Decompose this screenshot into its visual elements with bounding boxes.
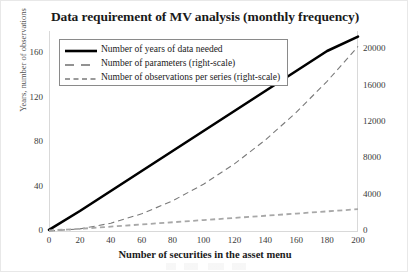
y-axis-title: Years, number of observations xyxy=(18,0,28,140)
chart-legend: Number of years of data needed Number of… xyxy=(59,39,288,86)
legend-item: Number of parameters (right-scale) xyxy=(63,56,284,70)
legend-item: Number of observations per series (right… xyxy=(63,70,284,84)
legend-swatch-solid-icon xyxy=(63,43,99,55)
legend-swatch-dashed-icon xyxy=(63,57,99,69)
chart-screenshot: Data requirement of MV analysis (monthly… xyxy=(0,0,408,272)
y-axis-right-tick: 16000 xyxy=(363,80,403,90)
y-axis-right-tick: 8000 xyxy=(363,152,403,162)
legend-label: Number of parameters (right-scale) xyxy=(101,57,235,69)
scan-artifact xyxy=(166,263,246,270)
legend-label: Number of observations per series (right… xyxy=(101,71,280,83)
series-line-observations-per-series xyxy=(49,209,358,230)
x-axis-line xyxy=(49,231,358,232)
page-title: Data requirement of MV analysis (monthly… xyxy=(1,9,408,25)
y-axis-left-tick: 40 xyxy=(3,181,43,191)
y-axis-right-tick: 4000 xyxy=(363,189,403,199)
legend-item: Number of years of data needed xyxy=(63,42,284,56)
x-axis-title: Number of securities in the asset menu xyxy=(1,249,408,260)
y-axis-left-tick: 80 xyxy=(3,136,43,146)
y-axis-left-tick: 120 xyxy=(3,92,43,102)
y-axis-right-tick: 20000 xyxy=(363,43,403,53)
y-axis-left-tick: 0 xyxy=(3,225,43,235)
y-axis-right-tick: 12000 xyxy=(363,116,403,126)
y-axis-right-tick: 0 xyxy=(363,225,403,235)
legend-label: Number of years of data needed xyxy=(101,43,223,55)
y-axis-left-tick: 160 xyxy=(3,47,43,57)
x-axis-tick: 200 xyxy=(338,235,378,245)
legend-swatch-dotted-icon xyxy=(63,71,99,83)
